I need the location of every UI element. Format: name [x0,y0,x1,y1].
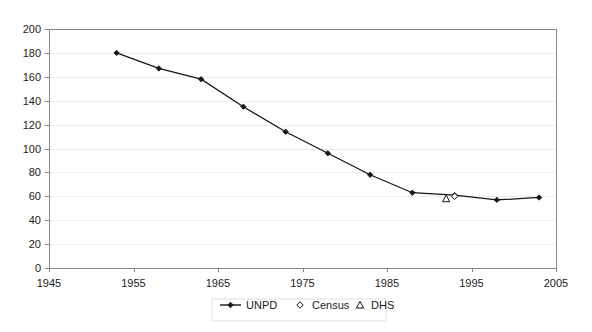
y-axis-label-140: 140 [23,95,41,107]
y-axis-label-0: 0 [35,262,41,274]
y-axis-label-120: 120 [23,119,41,131]
legend-label-dhs: DHS [371,299,394,311]
x-axis-label-1955: 1955 [121,277,145,289]
x-axis-label-1945: 1945 [37,277,61,289]
x-axis-label-1985: 1985 [375,277,399,289]
line-chart: 200180160140120100806040200 194519551965… [0,0,592,332]
chart-legend: UNPDCensusDHS [212,299,394,321]
y-axis-label-100: 100 [23,143,41,155]
y-axis-label-160: 160 [23,71,41,83]
x-axis-label-2005: 2005 [544,277,568,289]
legend-label-unpd: UNPD [246,299,277,311]
legend-label-census: Census [312,299,350,311]
x-axis-label-1975: 1975 [290,277,314,289]
y-axis-label-180: 180 [23,47,41,59]
y-axis-label-20: 20 [29,238,41,250]
y-axis-label-80: 80 [29,166,41,178]
x-axis-label-1965: 1965 [206,277,230,289]
y-axis-label-40: 40 [29,214,41,226]
x-axis-label-1995: 1995 [459,277,483,289]
y-axis-label-60: 60 [29,190,41,202]
chart-container: 200180160140120100806040200 194519551965… [0,0,592,332]
y-axis-label-200: 200 [23,23,41,35]
